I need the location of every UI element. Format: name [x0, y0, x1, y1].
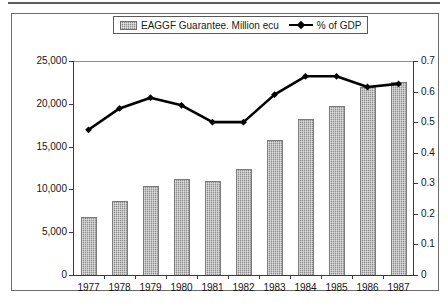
- chart-legend: EAGGF Guarantee. Million ecu % of GDP: [113, 16, 368, 34]
- right-tick-label: 0.7: [421, 56, 435, 66]
- bottom-tick: [321, 275, 322, 279]
- x-tick-label-1977: 1977: [73, 283, 104, 293]
- right-tick-label: 0.6: [421, 87, 435, 97]
- bar-swatch-icon: [120, 21, 137, 30]
- left-tick-label: 20,000: [36, 99, 67, 109]
- right-tick-label: 0.4: [421, 148, 435, 158]
- legend-entry-line: % of GDP: [289, 20, 361, 31]
- right-tick: [414, 122, 418, 123]
- bottom-tick: [228, 275, 229, 279]
- figure-page: EAGGF Guarantee. Million ecu % of GDP 05…: [0, 0, 448, 306]
- left-tick: [69, 275, 73, 276]
- x-tick-label-1986: 1986: [352, 283, 383, 293]
- right-tick: [414, 244, 418, 245]
- right-tick: [414, 275, 418, 276]
- left-tick: [69, 232, 73, 233]
- x-tick-label-1980: 1980: [166, 283, 197, 293]
- left-tick-label: 25,000: [36, 56, 67, 66]
- line-series: [73, 61, 414, 276]
- left-tick: [69, 104, 73, 105]
- bottom-tick: [104, 275, 105, 279]
- bottom-tick: [383, 275, 384, 279]
- bottom-tick: [259, 275, 260, 279]
- right-tick: [414, 183, 418, 184]
- left-tick-label: 15,000: [36, 142, 67, 152]
- legend-label-line: % of GDP: [317, 20, 361, 31]
- line-marker-icon: [289, 21, 313, 30]
- left-tick-label: 0: [61, 270, 67, 280]
- plot-area: 05,00010,00015,00020,00025,000 00.10.20.…: [73, 61, 414, 276]
- left-tick-label: 5,000: [42, 227, 67, 237]
- right-tick: [414, 92, 418, 93]
- x-tick-label-1981: 1981: [197, 283, 228, 293]
- bottom-tick: [135, 275, 136, 279]
- bottom-tick: [290, 275, 291, 279]
- gdp-marker-1987: [395, 81, 402, 88]
- left-tick-label: 10,000: [36, 184, 67, 194]
- x-tick-label-1984: 1984: [290, 283, 321, 293]
- x-tick-label-1982: 1982: [228, 283, 259, 293]
- right-tick-label: 0.2: [421, 209, 435, 219]
- x-tick-label-1978: 1978: [104, 283, 135, 293]
- x-tick-label-1987: 1987: [383, 283, 414, 293]
- right-tick: [414, 61, 418, 62]
- right-tick: [414, 214, 418, 215]
- x-tick-label-1979: 1979: [135, 283, 166, 293]
- chart-frame: EAGGF Guarantee. Million ecu % of GDP 05…: [11, 13, 439, 291]
- right-tick: [414, 153, 418, 154]
- right-tick-label: 0.1: [421, 239, 435, 249]
- left-tick: [69, 147, 73, 148]
- left-tick: [69, 189, 73, 190]
- x-tick-label-1985: 1985: [321, 283, 352, 293]
- bottom-tick: [352, 275, 353, 279]
- x-tick-label-1983: 1983: [259, 283, 290, 293]
- legend-label-bars: EAGGF Guarantee. Million ecu: [141, 20, 279, 31]
- right-tick-label: 0.3: [421, 178, 435, 188]
- bottom-tick: [197, 275, 198, 279]
- right-tick-label: 0.5: [421, 117, 435, 127]
- bottom-tick: [166, 275, 167, 279]
- left-tick: [69, 61, 73, 62]
- page-top-rule: [8, 2, 440, 4]
- legend-entry-bars: EAGGF Guarantee. Million ecu: [120, 20, 279, 31]
- gdp-marker-1979: [147, 94, 154, 101]
- right-tick-label: 0: [421, 270, 427, 280]
- gdp-marker-1986: [364, 84, 371, 91]
- gdp-marker-1985: [333, 73, 340, 80]
